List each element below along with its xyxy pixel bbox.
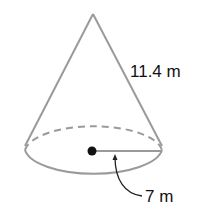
center-point [88, 147, 97, 156]
radius-label: 7 m [145, 187, 173, 206]
cone-diagram: 11.4 m 7 m [0, 0, 201, 212]
arrowhead-icon [113, 154, 118, 160]
slant-height-label: 11.4 m [130, 62, 181, 81]
base-back-arc-dashed [25, 126, 162, 150]
radius-pointer-arrow [115, 157, 142, 196]
